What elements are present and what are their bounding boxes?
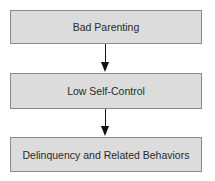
node-label: Low Self-Control [67, 85, 145, 97]
node-low-self-control: Low Self-Control [10, 73, 202, 109]
arrowhead-icon [101, 62, 109, 72]
node-delinquency: Delinquency and Related Behaviors [10, 137, 202, 172]
arrow-edge-1 [105, 44, 106, 64]
node-bad-parenting: Bad Parenting [10, 10, 202, 44]
arrowhead-icon [101, 126, 109, 136]
node-label: Delinquency and Related Behaviors [23, 149, 190, 161]
node-label: Bad Parenting [73, 21, 140, 33]
